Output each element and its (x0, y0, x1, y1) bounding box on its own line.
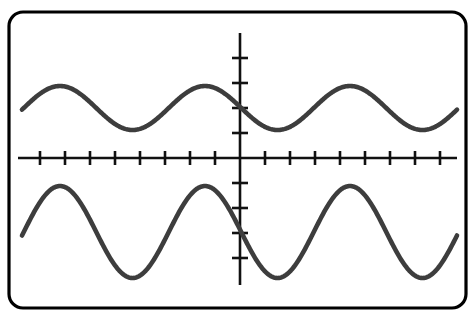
screen-background (0, 0, 476, 320)
calculator-display-panel (0, 0, 476, 320)
graph-plot-area (0, 0, 476, 320)
calculator-screenshot (0, 0, 476, 320)
